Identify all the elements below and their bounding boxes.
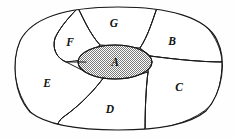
- region-c-shape[interactable]: [145, 56, 222, 130]
- region-map-figure: A B C D E F G: [0, 0, 236, 138]
- region-label-g: G: [110, 17, 119, 29]
- region-label-a: A: [110, 56, 119, 68]
- region-fill-group: [15, 7, 222, 131]
- region-label-e: E: [42, 77, 51, 89]
- region-label-b: B: [167, 35, 176, 47]
- region-label-d: D: [105, 103, 115, 115]
- map-diagram-canvas: A B C D E F G: [0, 0, 236, 138]
- region-label-c: C: [175, 81, 183, 93]
- region-label-f: F: [65, 36, 74, 48]
